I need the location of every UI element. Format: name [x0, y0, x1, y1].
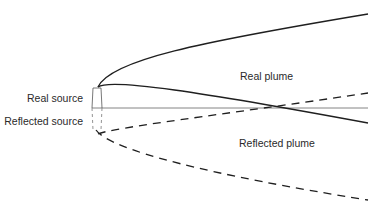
reflected-plume-lower-edge: [96, 130, 368, 200]
real-plume-lower-edge: [98, 84, 368, 123]
plume-reflection-diagram: [0, 0, 379, 208]
real-stack: [92, 88, 102, 108]
reflected-plume-label: Reflected plume: [239, 138, 315, 149]
real-source-label: Real source: [5, 93, 83, 104]
reflected-source-label: Reflected source: [0, 116, 83, 127]
real-plume-label: Real plume: [240, 71, 293, 82]
reflected-stack: [92, 108, 102, 130]
real-plume-upper-edge: [98, 14, 368, 87]
